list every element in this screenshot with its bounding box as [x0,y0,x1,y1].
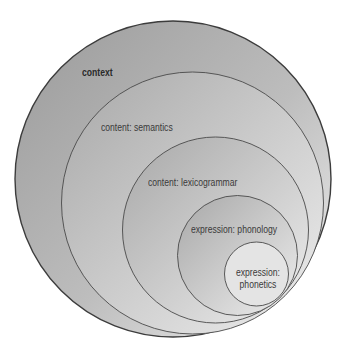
nested-circles-diagram: context content: semantics content: lexi… [0,0,347,352]
label-phonetics-line1: expression: [230,267,285,279]
diagram-canvas [0,0,347,352]
label-phonetics: expression: phonetics [230,267,285,291]
label-semantics: content: semantics [101,122,173,134]
label-phonetics-line2: phonetics [230,279,285,291]
label-phonology: expression: phonology [191,224,277,236]
label-lexicogrammar: content: lexicogrammar [148,177,237,189]
label-context: context [82,67,113,79]
